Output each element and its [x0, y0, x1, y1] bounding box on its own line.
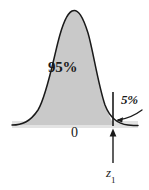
body-area-label: 95% — [48, 60, 77, 75]
critical-value-pointer-arrowhead — [110, 129, 117, 137]
tail-area-label: 5% — [121, 93, 138, 106]
critical-value-subscript: 1 — [111, 175, 116, 185]
normal-distribution-figure: 95% 5% 0 z1 — [0, 0, 149, 190]
axis-center-label: 0 — [71, 126, 78, 140]
critical-value-label: z1 — [106, 166, 116, 183]
